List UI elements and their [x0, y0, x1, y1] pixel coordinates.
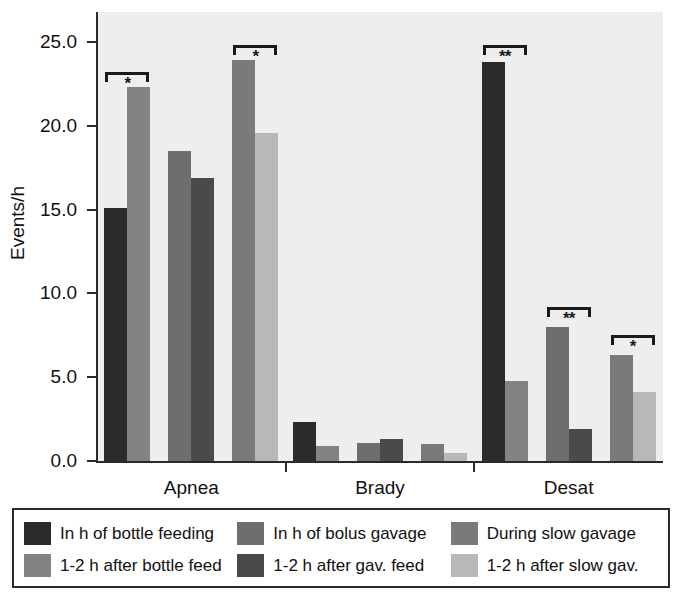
bar	[191, 178, 214, 461]
legend-color-swatch	[451, 554, 478, 577]
significance-bracket: *	[105, 72, 149, 94]
y-tick	[87, 209, 97, 211]
significance-stars: *	[105, 76, 149, 92]
legend-color-swatch	[237, 554, 264, 577]
significance-stars: **	[547, 311, 591, 327]
legend-color-swatch	[24, 522, 51, 545]
legend-item-label: In h of bolus gavage	[273, 524, 426, 543]
bar	[293, 422, 316, 461]
legend-color-swatch	[451, 522, 478, 545]
significance-bracket: *	[611, 335, 655, 357]
bars-layer	[97, 12, 663, 461]
y-tick-label: 25.0	[15, 32, 77, 51]
legend: In h of bottle feedingIn h of bolus gava…	[12, 508, 670, 588]
bar	[127, 87, 150, 461]
y-tick	[87, 376, 97, 378]
y-tick-label: 20.0	[15, 116, 77, 135]
significance-stars: *	[611, 339, 655, 355]
bar	[569, 429, 592, 461]
significance-stars: **	[483, 49, 527, 65]
legend-item: 1-2 h after bottle feed	[24, 550, 233, 580]
y-tick	[87, 41, 97, 43]
bar	[104, 208, 127, 461]
x-axis-line	[96, 461, 663, 463]
y-tick	[87, 460, 97, 462]
y-tick-label: 5.0	[15, 367, 77, 386]
legend-item-label: 1-2 h after slow gav.	[487, 556, 639, 575]
legend-item: In h of bottle feeding	[24, 518, 233, 548]
bar	[255, 133, 278, 461]
legend-color-swatch	[237, 522, 264, 545]
legend-item: During slow gavage	[451, 518, 660, 548]
y-tick-label: 0.0	[15, 451, 77, 470]
legend-item-label: During slow gavage	[487, 524, 636, 543]
x-tick-label: Brady	[300, 477, 460, 499]
bar	[633, 392, 656, 461]
bar	[357, 443, 380, 461]
significance-stars: *	[233, 49, 277, 65]
bar	[168, 151, 191, 461]
legend-grid: In h of bottle feedingIn h of bolus gava…	[24, 518, 660, 580]
x-tick	[285, 462, 287, 472]
legend-item-label: 1-2 h after bottle feed	[60, 556, 222, 575]
bar	[482, 62, 505, 461]
bar	[546, 327, 569, 461]
legend-item: 1-2 h after gav. feed	[237, 550, 446, 580]
y-tick	[87, 125, 97, 127]
x-tick-label: Apnea	[111, 477, 271, 499]
bar	[505, 381, 528, 461]
legend-item: 1-2 h after slow gav.	[451, 550, 660, 580]
significance-bracket: **	[547, 307, 591, 329]
x-tick	[473, 462, 475, 472]
legend-item-label: 1-2 h after gav. feed	[273, 556, 424, 575]
bar	[444, 453, 467, 461]
bar	[610, 355, 633, 461]
x-tick-label: Desat	[489, 477, 649, 499]
significance-bracket: **	[483, 45, 527, 67]
bar-chart-figure: 0.05.010.015.020.025.0 Events/h ApneaBra…	[0, 0, 684, 601]
y-axis-label: Events/h	[7, 153, 29, 293]
bar	[421, 444, 444, 461]
significance-bracket: *	[233, 45, 277, 67]
legend-color-swatch	[24, 554, 51, 577]
legend-item: In h of bolus gavage	[237, 518, 446, 548]
y-tick	[87, 292, 97, 294]
bar	[232, 60, 255, 461]
bar	[380, 439, 403, 461]
legend-item-label: In h of bottle feeding	[60, 524, 214, 543]
bar	[316, 446, 339, 461]
